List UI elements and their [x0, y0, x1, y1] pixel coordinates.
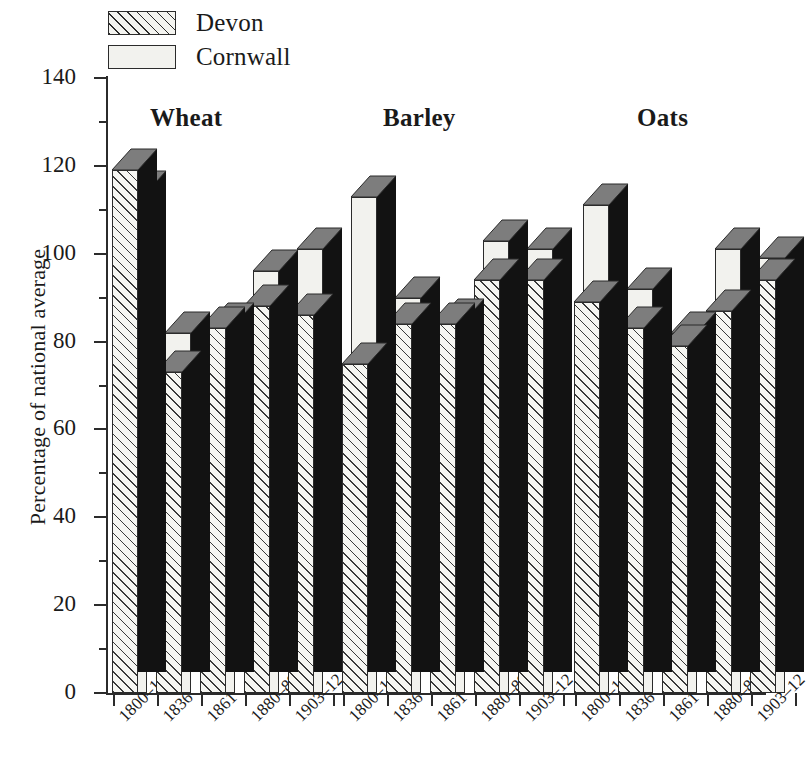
bar-top-face	[297, 227, 344, 250]
bar-side	[412, 303, 431, 672]
y-axis-ticks: 020406080100120140	[80, 0, 106, 762]
y-tick-minor	[99, 648, 106, 650]
bar-top-face	[759, 236, 806, 259]
bar-top-face	[583, 183, 630, 206]
bar-side	[688, 325, 707, 672]
bar-devon-barley-0	[342, 364, 368, 693]
bar-devon-oats-0	[574, 302, 600, 693]
bar-side	[270, 285, 289, 672]
y-tick-minor	[99, 560, 106, 562]
y-tick-label: 20	[0, 591, 76, 617]
bar-side	[776, 259, 795, 672]
bar-side	[456, 303, 475, 672]
bar-top-face	[483, 219, 530, 242]
x-axis-line	[106, 693, 766, 695]
group-title-wheat: Wheat	[150, 104, 222, 132]
x-tick	[343, 693, 345, 706]
group-title-oats: Oats	[637, 104, 688, 132]
group-title-barley: Barley	[383, 104, 456, 132]
y-tick-minor	[99, 297, 106, 299]
x-tick	[475, 693, 477, 706]
y-tick	[94, 516, 106, 518]
bar-top-face	[351, 175, 398, 198]
y-tick	[94, 253, 106, 255]
y-tick-label: 80	[0, 328, 76, 354]
y-tick	[94, 692, 106, 694]
bar-side	[644, 307, 663, 672]
bar-side	[544, 259, 563, 672]
x-tick	[575, 693, 577, 706]
bar-devon-wheat-0	[112, 170, 138, 693]
x-tick	[245, 693, 247, 706]
y-tick-minor	[99, 121, 106, 123]
bar-top-face	[112, 148, 159, 171]
x-tick	[113, 693, 115, 706]
bar-top-face	[574, 280, 621, 303]
bar-face	[342, 364, 368, 693]
y-tick-label: 60	[0, 415, 76, 441]
bar-top-face	[395, 276, 442, 299]
bar-side	[182, 351, 201, 672]
bar-top-face	[342, 342, 389, 365]
y-tick	[94, 341, 106, 343]
bar-face	[574, 302, 600, 693]
y-tick-label: 140	[0, 64, 76, 90]
bar-side	[226, 307, 245, 672]
y-tick-label: 40	[0, 503, 76, 529]
x-tick	[431, 693, 433, 706]
bar-side	[732, 290, 751, 672]
x-tick	[201, 693, 203, 706]
bar-side	[368, 343, 387, 672]
bar-top-face	[706, 289, 753, 312]
y-tick-minor	[99, 385, 106, 387]
y-tick-minor	[99, 209, 106, 211]
bar-top-face	[527, 227, 574, 250]
y-tick-label: 100	[0, 240, 76, 266]
bar-side	[138, 149, 157, 672]
y-tick	[94, 428, 106, 430]
x-tick	[707, 693, 709, 706]
bar-side	[600, 281, 619, 672]
bar-top-face	[715, 227, 762, 250]
y-tick-label: 120	[0, 152, 76, 178]
y-tick-minor	[99, 472, 106, 474]
y-tick	[94, 77, 106, 79]
bar-side	[314, 294, 333, 672]
x-tick	[663, 693, 665, 706]
bar-top-face	[627, 267, 674, 290]
y-tick-label: 0	[0, 679, 76, 705]
bar-side	[500, 259, 519, 672]
bar-face	[112, 170, 138, 693]
bar-top-face	[253, 249, 300, 272]
bar-top-face	[165, 311, 212, 334]
y-axis-line	[106, 76, 108, 695]
y-tick	[94, 604, 106, 606]
y-tick	[94, 165, 106, 167]
bar-top-face	[474, 258, 521, 281]
